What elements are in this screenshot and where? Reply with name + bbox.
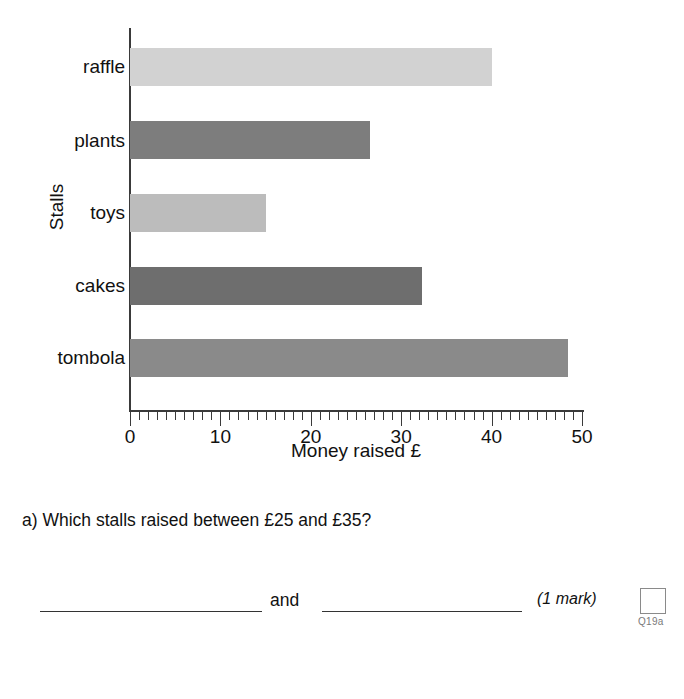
x-tick-24 — [347, 412, 348, 420]
x-tick-47 — [555, 412, 556, 420]
x-tick-29 — [392, 412, 393, 420]
category-label-tombola: tombola — [0, 348, 125, 367]
x-tick-37 — [464, 412, 465, 420]
x-tick-34 — [437, 412, 438, 420]
bar-row-raffle — [130, 48, 492, 86]
x-tick-label-30: 30 — [371, 426, 431, 448]
x-tick-43 — [519, 412, 520, 420]
bar-cakes — [130, 267, 422, 305]
x-tick-19 — [302, 412, 303, 420]
x-tick-35 — [446, 412, 447, 420]
x-tick-8 — [202, 412, 203, 420]
x-tick-39 — [483, 412, 484, 420]
x-tick-44 — [528, 412, 529, 420]
x-tick-50 — [582, 412, 583, 426]
x-tick-6 — [184, 412, 185, 420]
x-tick-17 — [284, 412, 285, 420]
bar-raffle — [130, 48, 492, 86]
x-tick-21 — [320, 412, 321, 420]
x-tick-14 — [257, 412, 258, 420]
x-tick-7 — [193, 412, 194, 420]
x-tick-label-0: 0 — [100, 426, 160, 448]
x-tick-label-10: 10 — [190, 426, 250, 448]
bar-row-cakes — [130, 267, 422, 305]
bar-row-plants — [130, 121, 370, 159]
x-tick-15 — [266, 412, 267, 420]
question-a-prompt: a) Which stalls raised between £25 and £… — [22, 510, 371, 530]
x-tick-2 — [148, 412, 149, 420]
bar-toys — [130, 194, 266, 232]
x-tick-25 — [356, 412, 357, 420]
x-tick-10 — [220, 412, 221, 426]
x-tick-16 — [275, 412, 276, 420]
plot-area — [130, 28, 582, 410]
x-tick-13 — [248, 412, 249, 420]
question-a-answer-field-1[interactable] — [40, 610, 262, 612]
question-a-marker-box[interactable] — [640, 588, 666, 614]
x-tick-label-20: 20 — [281, 426, 341, 448]
x-tick-4 — [166, 412, 167, 420]
x-tick-26 — [365, 412, 366, 420]
x-tick-23 — [338, 412, 339, 420]
questions-section: a) Which stalls raised between £25 and £… — [0, 480, 684, 699]
x-tick-label-50: 50 — [552, 426, 612, 448]
question-a-mark-note: (1 mark) — [537, 590, 597, 608]
bar-chart-figure: Stalls Money raised £ raffle plants toys… — [0, 0, 684, 480]
x-tick-11 — [229, 412, 230, 420]
x-tick-38 — [474, 412, 475, 420]
x-tick-41 — [501, 412, 502, 420]
x-tick-36 — [455, 412, 456, 420]
question-a-answer-field-2[interactable] — [322, 610, 522, 612]
x-tick-31 — [410, 412, 411, 420]
category-label-plants: plants — [0, 131, 125, 150]
x-tick-45 — [537, 412, 538, 420]
bar-plants — [130, 121, 370, 159]
x-tick-49 — [573, 412, 574, 420]
x-tick-48 — [564, 412, 565, 420]
x-tick-3 — [157, 412, 158, 420]
question-a-marker-label: Q19a — [638, 616, 664, 627]
x-tick-27 — [374, 412, 375, 420]
x-tick-22 — [329, 412, 330, 420]
x-tick-32 — [419, 412, 420, 420]
category-label-raffle: raffle — [0, 57, 125, 76]
x-tick-46 — [546, 412, 547, 420]
x-tick-9 — [211, 412, 212, 420]
category-label-cakes: cakes — [0, 276, 125, 295]
question-a-and-word: and — [270, 590, 299, 611]
category-label-toys: toys — [0, 203, 125, 222]
x-tick-0 — [130, 412, 131, 426]
x-tick-label-40: 40 — [462, 426, 522, 448]
x-tick-30 — [401, 412, 402, 426]
x-tick-18 — [293, 412, 294, 420]
x-tick-1 — [139, 412, 140, 420]
x-tick-40 — [492, 412, 493, 426]
bar-tombola — [130, 339, 568, 377]
x-tick-20 — [311, 412, 312, 426]
x-tick-42 — [510, 412, 511, 420]
x-tick-33 — [428, 412, 429, 420]
x-tick-12 — [238, 412, 239, 420]
x-tick-5 — [175, 412, 176, 420]
x-tick-28 — [383, 412, 384, 420]
bar-row-toys — [130, 194, 266, 232]
bar-row-tombola — [130, 339, 568, 377]
